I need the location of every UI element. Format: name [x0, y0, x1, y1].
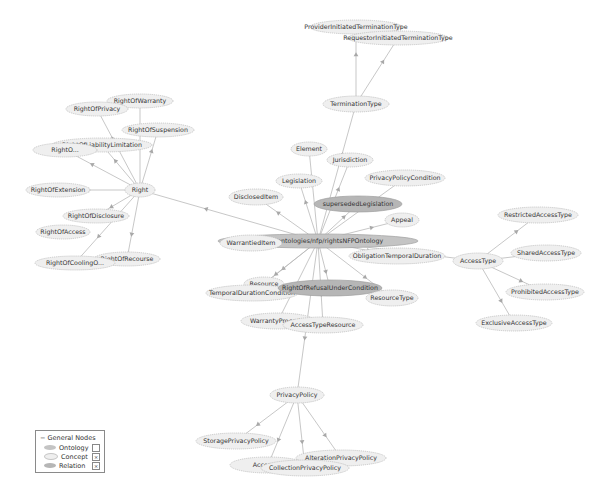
node-RestrictedAccessType[interactable]: RestrictedAccessType — [498, 207, 578, 223]
node-label: StoragePrivacyPolicy — [203, 437, 269, 445]
node-TerminationType[interactable]: TerminationType — [323, 96, 389, 112]
arrowhead-icon — [303, 336, 308, 340]
node-label: RightO... — [51, 146, 78, 154]
arrowhead-icon — [322, 433, 326, 438]
relation-visibility-checkbox[interactable]: × — [92, 462, 100, 470]
node-Right[interactable]: Right — [125, 183, 155, 197]
node-label: PrivacyPolicy — [277, 391, 318, 399]
node-label: SharedAccessType — [517, 249, 575, 257]
node-label: Jurisdiction — [332, 156, 368, 164]
node-ObligationTemporalDuration[interactable]: ObligationTemporalDuration — [349, 248, 445, 264]
legend-item-relation: Relation — [44, 461, 85, 470]
node-label: RightOfRefusalUnderCondition — [282, 284, 378, 292]
arrowhead-icon — [256, 422, 261, 426]
arrowhead-icon — [514, 230, 519, 234]
concept-swatch-icon — [44, 453, 58, 460]
arrowhead-icon — [323, 270, 328, 274]
arrowhead-icon — [300, 440, 305, 444]
node-supersededLegislation[interactable]: supersededLegislation — [314, 196, 402, 212]
edge-ontology-TerminationType — [318, 104, 356, 241]
node-label: RestrictedAccessType — [504, 211, 572, 219]
edge-TerminationType-RequestorInitiatedTerminationType — [356, 38, 398, 104]
node-ResourceType[interactable]: ResourceType — [366, 290, 418, 306]
edge-PrivacyPolicy-AlterationPrivacyPolicy — [297, 395, 341, 458]
node-label: RequestorInitiatedTerminationType — [343, 34, 453, 42]
node-Jurisdiction[interactable]: Jurisdiction — [327, 153, 373, 167]
node-SharedAccessType[interactable]: SharedAccessType — [511, 245, 581, 261]
node-CollectionPrivacyPolicy[interactable]: CollectionPrivacyPolicy — [261, 460, 349, 476]
node-RightOfExtension[interactable]: RightOfExtension — [26, 183, 90, 197]
node-WarrantiedItem[interactable]: WarrantiedItem — [220, 235, 282, 251]
node-AccessType[interactable]: AccessType — [453, 253, 503, 269]
node-label: ExclusiveAccessType — [481, 319, 547, 327]
node-RightOfCreation[interactable]: RightO... — [33, 143, 97, 157]
node-label: AccessType — [460, 257, 496, 265]
legend-title[interactable]: − General Nodes — [40, 434, 96, 442]
node-label: AccessTypeResource — [291, 321, 356, 329]
node-RightOfDisclosure[interactable]: RightOfDisclosure — [63, 209, 129, 223]
node-RightOfAccess[interactable]: RightOfAccess — [36, 225, 90, 239]
node-ExclusiveAccessType[interactable]: ExclusiveAccessType — [476, 315, 552, 331]
node-label: RightOfDisclosure — [68, 212, 124, 220]
node-PrivacyPolicy[interactable]: PrivacyPolicy — [270, 387, 324, 403]
node-RightOfSuspension[interactable]: RightOfSuspension — [122, 123, 194, 137]
arrowhead-icon — [362, 274, 367, 278]
node-label: RightOfPrivacy — [74, 105, 121, 113]
legend-item-label: Relation — [59, 462, 85, 470]
node-label: ObligationTemporalDuration — [353, 252, 442, 260]
legend-item-label: Ontology — [59, 444, 89, 452]
relation-swatch-icon — [44, 463, 56, 468]
edge-Right-RightOfRecourse — [127, 190, 140, 259]
node-label: Right — [132, 186, 149, 194]
node-label: RightOfWarranty — [114, 97, 167, 105]
node-StoragePrivacyPolicy[interactable]: StoragePrivacyPolicy — [196, 433, 276, 449]
node-DisclosedItem[interactable]: DisclosedItem — [229, 189, 283, 205]
node-label: CollectionPrivacyPolicy — [269, 464, 341, 472]
ontology-graph-canvas[interactable]: ...p.org/ontologies/nfp/rightsNFPOntolog… — [0, 0, 610, 500]
node-label: ProhibitedAccessType — [511, 288, 579, 296]
node-label: supersededLegislation — [323, 200, 394, 208]
node-label: Element — [296, 145, 323, 152]
node-label: RightOfExtension — [31, 186, 86, 194]
node-RightOfCoolingOff[interactable]: RightOfCoolingO... — [35, 256, 115, 270]
arrowhead-icon — [274, 271, 279, 275]
node-label: DisclosedItem — [234, 193, 278, 200]
graph-nodes: ...p.org/ontologies/nfp/rightsNFPOntolog… — [26, 20, 584, 476]
node-PrivacyPolicyCondition[interactable]: PrivacyPolicyCondition — [365, 170, 445, 186]
legend-title-label: General Nodes — [48, 434, 96, 442]
legend-panel: − General Nodes Ontology Concept × Relat… — [35, 430, 105, 473]
node-ProhibitedAccessType[interactable]: ProhibitedAccessType — [506, 284, 584, 300]
node-label: TerminationType — [329, 100, 382, 108]
ontology-visibility-checkbox[interactable] — [92, 444, 100, 452]
ontology-swatch-icon — [44, 445, 56, 450]
node-label: Appeal — [391, 216, 413, 224]
node-label: RightOfAccess — [40, 228, 85, 236]
node-label: RightOfCoolingO... — [46, 259, 104, 267]
concept-visibility-checkbox[interactable]: × — [92, 453, 100, 461]
node-label: ProviderInitiatedTerminationType — [304, 23, 407, 31]
node-label: RightOfSuspension — [128, 126, 188, 134]
node-Element[interactable]: Element — [291, 142, 327, 156]
node-AccessTypeResource[interactable]: AccessTypeResource — [283, 317, 363, 333]
node-label: WarrantiedItem — [226, 239, 275, 246]
edge-Right-RightOfSuspension — [140, 130, 158, 190]
node-Appeal[interactable]: Appeal — [385, 213, 419, 227]
node-RightOfPrivacy[interactable]: RightOfPrivacy — [66, 102, 128, 116]
arrowhead-icon — [276, 211, 281, 215]
legend-item-concept: Concept — [44, 452, 88, 461]
legend-item-ontology: Ontology — [44, 443, 89, 452]
collapse-icon[interactable]: − — [40, 434, 45, 442]
arrowhead-icon — [369, 226, 373, 231]
arrowhead-icon — [354, 52, 359, 56]
arrowhead-icon — [130, 232, 135, 236]
node-label: PrivacyPolicyCondition — [370, 174, 441, 182]
node-RightOfRefusalUnderCondition[interactable]: RightOfRefusalUnderCondition — [278, 280, 382, 296]
legend-item-label: Concept — [61, 453, 88, 461]
arrowhead-icon — [204, 207, 209, 212]
node-label: ResourceType — [370, 294, 413, 302]
node-label: Legislation — [282, 177, 316, 185]
node-Legislation[interactable]: Legislation — [276, 174, 322, 188]
